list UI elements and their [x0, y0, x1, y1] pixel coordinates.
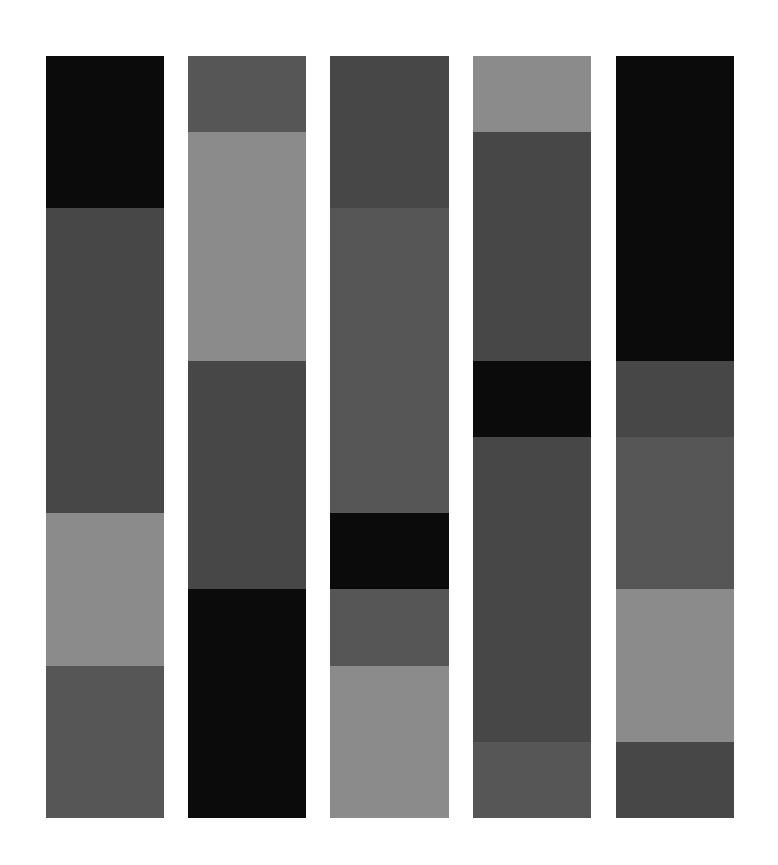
- segment-black: [188, 589, 306, 818]
- segment-dark: [616, 742, 734, 818]
- segment-mid: [330, 208, 449, 513]
- segment-dark: [473, 437, 591, 742]
- segment-mid: [330, 589, 449, 665]
- segment-black: [330, 513, 449, 589]
- segment-mid: [188, 56, 306, 132]
- segment-black: [46, 56, 164, 208]
- segment-dark: [330, 56, 449, 208]
- segment-dark: [46, 208, 164, 513]
- column-3: [330, 56, 449, 818]
- segment-light: [330, 666, 449, 818]
- segment-light: [188, 132, 306, 361]
- segment-mid: [616, 437, 734, 589]
- segment-mid: [46, 666, 164, 818]
- column-1: [46, 56, 164, 818]
- segment-dark: [473, 132, 591, 361]
- segment-light: [473, 56, 591, 132]
- segment-dark: [188, 361, 306, 590]
- segment-dark: [616, 361, 734, 437]
- segment-black: [473, 361, 591, 437]
- segment-mid: [473, 742, 591, 818]
- column-5: [616, 56, 734, 818]
- stripe-canvas: [0, 0, 778, 865]
- column-2: [188, 56, 306, 818]
- segment-light: [46, 513, 164, 665]
- column-4: [473, 56, 591, 818]
- segment-light: [616, 589, 734, 741]
- segment-black: [616, 56, 734, 361]
